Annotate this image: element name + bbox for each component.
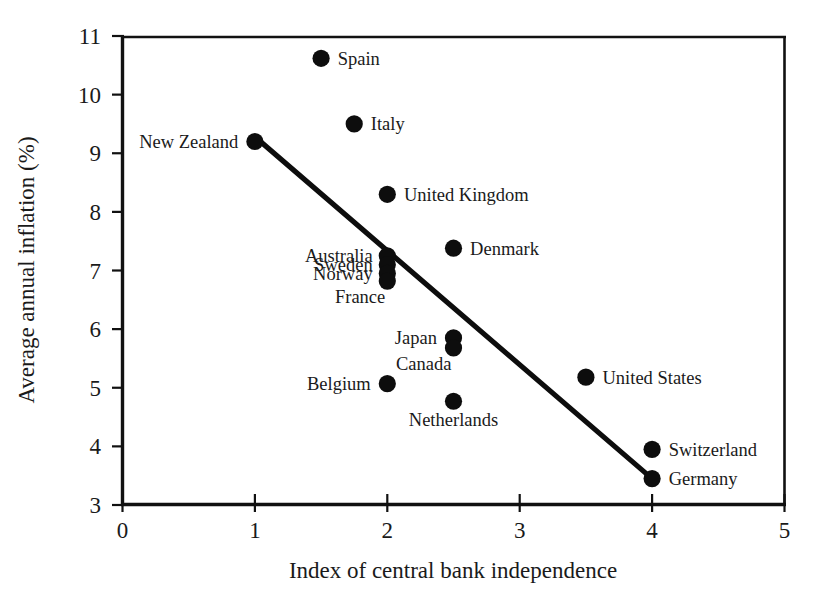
data-point[interactable]: [379, 375, 396, 392]
x-tick-label: 5: [779, 518, 791, 543]
data-point[interactable]: [644, 441, 661, 458]
x-tick-label: 2: [382, 518, 394, 543]
data-point[interactable]: [379, 186, 396, 203]
x-tick-label: 3: [514, 518, 526, 543]
data-point[interactable]: [246, 133, 263, 150]
x-tick-label: 4: [646, 518, 658, 543]
data-points-group: SpainItalyNew ZealandUnited KingdomDenma…: [139, 49, 758, 489]
data-point[interactable]: [313, 50, 330, 67]
y-axis-title: Average annual inflation (%): [14, 136, 39, 403]
data-point-label: Canada: [396, 354, 451, 374]
y-tick-label: 3: [90, 493, 102, 518]
y-tick-label: 7: [90, 259, 102, 284]
data-point[interactable]: [577, 369, 594, 386]
data-point[interactable]: [644, 470, 661, 487]
data-point-label: France: [335, 287, 385, 307]
data-point-label: United States: [603, 368, 702, 388]
data-point-label: Switzerland: [669, 440, 758, 460]
data-point[interactable]: [445, 393, 462, 410]
x-tick-label: 1: [249, 518, 261, 543]
y-tick-label: 5: [90, 376, 102, 401]
x-tick-label: 0: [117, 518, 129, 543]
y-tick-label: 10: [78, 83, 101, 108]
y-tick-label: 6: [90, 317, 102, 342]
data-point-label: Denmark: [470, 239, 540, 259]
data-point-label: New Zealand: [139, 132, 239, 152]
data-point[interactable]: [346, 115, 363, 132]
scatter-chart-figure: 34567891011 012345 SpainItalyNew Zealand…: [0, 0, 829, 596]
data-point[interactable]: [445, 240, 462, 257]
x-axis-ticks: 012345: [117, 494, 791, 543]
y-tick-label: 4: [90, 434, 102, 459]
data-point-label: United Kingdom: [404, 185, 529, 205]
y-tick-label: 9: [90, 141, 102, 166]
y-tick-label: 8: [90, 200, 102, 225]
data-point-label: Germany: [669, 469, 739, 489]
data-point-label: Netherlands: [409, 410, 498, 430]
y-axis-ticks: 34567891011: [78, 24, 124, 518]
data-point-label: Belgium: [307, 374, 371, 394]
x-axis-title: Index of central bank independence: [289, 558, 617, 583]
data-point-label: Spain: [338, 49, 380, 69]
plot-frame: [121, 36, 786, 505]
data-point-label: Italy: [371, 114, 406, 134]
data-point-label: Japan: [395, 328, 437, 348]
y-tick-label: 11: [79, 24, 101, 49]
plot-canvas: 34567891011 012345 SpainItalyNew Zealand…: [0, 0, 829, 596]
data-point-label: Norway: [313, 264, 373, 284]
